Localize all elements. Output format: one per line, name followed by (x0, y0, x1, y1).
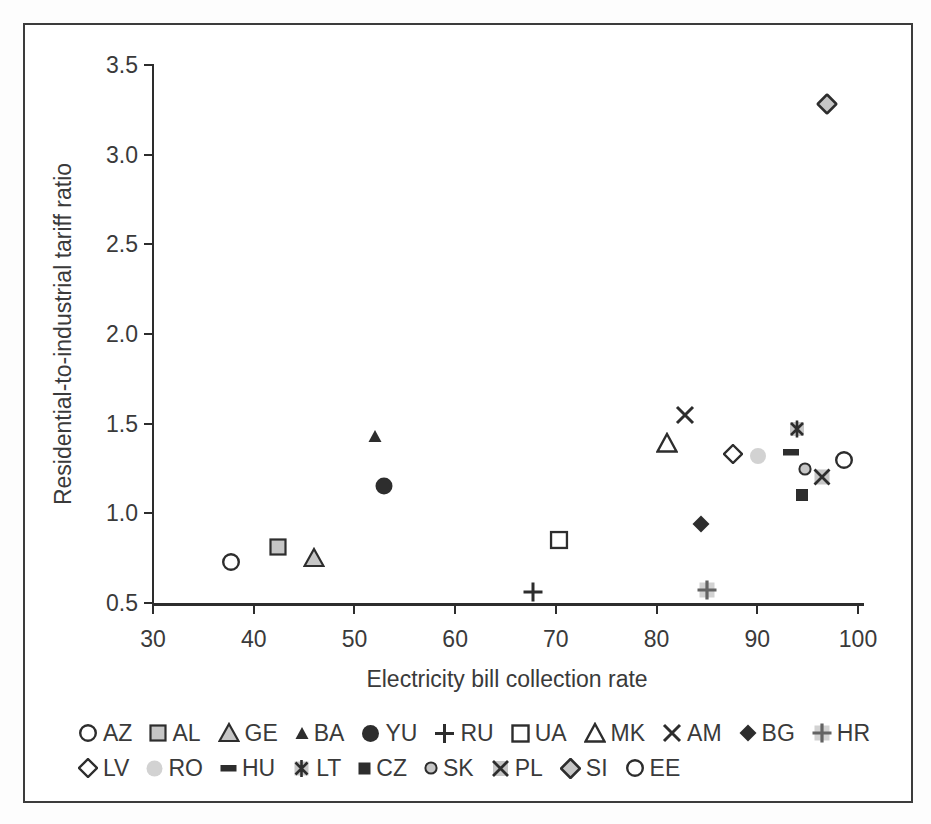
legend-item-CZ: CZ (358, 755, 407, 782)
point-EE (834, 450, 854, 470)
circle-open-icon (625, 758, 645, 778)
legend-label: LT (316, 755, 341, 782)
diamond-dark-icon (739, 724, 757, 742)
legend-row-2: LVROHULTCZSKPLSIEE (78, 753, 680, 783)
x-tick-label: 90 (727, 626, 787, 652)
plus-on-gray-icon (812, 723, 832, 743)
legend-label: BA (314, 720, 345, 747)
point-AZ (221, 552, 241, 572)
legend-item-RO: RO (146, 755, 203, 782)
x-tick-label: 40 (224, 626, 284, 652)
legend-item-AL: AL (149, 720, 200, 747)
point-LV (723, 444, 743, 464)
legend-label: CZ (376, 755, 407, 782)
x-tick-label: 80 (627, 626, 687, 652)
triangle-dark-small-icon (295, 726, 309, 740)
y-tick-mark (144, 512, 152, 514)
triangle-open-icon (584, 722, 606, 744)
x-tick-mark (555, 606, 557, 614)
legend-item-EE: EE (625, 755, 681, 782)
point-UA (549, 531, 568, 550)
legend-label: AZ (103, 720, 132, 747)
y-axis (152, 64, 154, 606)
x-tick-label: 60 (425, 626, 485, 652)
x-tick-mark (857, 606, 859, 614)
legend-label: YU (385, 720, 417, 747)
legend-item-LV: LV (78, 755, 129, 782)
square-dark-small-icon (358, 762, 371, 775)
point-RO (750, 447, 767, 464)
legend-label: GE (245, 720, 278, 747)
legend-item-LT: LT (292, 755, 341, 782)
point-HR (697, 580, 717, 600)
point-RU (522, 582, 543, 603)
diamond-open-icon (78, 758, 98, 778)
figure-canvas: 0.51.01.52.02.53.03.5 30405060708090100 … (0, 0, 931, 824)
x-tick-label: 70 (526, 626, 586, 652)
y-tick-label: 0.5 (68, 590, 138, 616)
x-tick-mark (656, 606, 658, 614)
point-CZ (795, 489, 808, 502)
legend-label: AM (687, 720, 722, 747)
legend-item-SI: SI (560, 755, 608, 782)
circle-open-icon (78, 723, 98, 743)
diamond-gray-icon (560, 758, 581, 779)
x-tick-mark (756, 606, 758, 614)
point-GE (303, 547, 325, 569)
legend-item-RU: RU (434, 720, 493, 747)
legend-label: SI (586, 755, 608, 782)
y-axis-title: Residential-to-industrial tariff ratio (50, 104, 80, 564)
point-AL (269, 538, 287, 556)
y-tick-mark (144, 154, 152, 156)
point-LT (787, 420, 806, 439)
y-tick-label: 3.5 (68, 52, 138, 78)
legend-label: HR (837, 720, 870, 747)
legend-item-PL: PL (491, 755, 543, 782)
legend-item-BG: BG (739, 720, 795, 747)
legend-label: PL (515, 755, 543, 782)
x-tick-label: 50 (324, 626, 384, 652)
legend-item-BA: BA (295, 720, 345, 747)
legend-label: AL (172, 720, 200, 747)
legend-label: SK (443, 755, 474, 782)
legend-label: EE (650, 755, 681, 782)
circle-gray-icon (146, 760, 163, 777)
point-PL (812, 468, 831, 487)
y-tick-mark (144, 64, 152, 66)
point-BG (692, 515, 710, 533)
point-HU (782, 448, 799, 456)
legend-label: RU (460, 720, 493, 747)
point-AM (675, 405, 695, 425)
x-tick-label: 30 (123, 626, 183, 652)
legend-label: MK (611, 720, 646, 747)
x-tick-mark (454, 606, 456, 614)
point-YU (374, 477, 393, 496)
legend-item-AM: AM (662, 720, 722, 747)
x-axis-title: Electricity bill collection rate (307, 666, 707, 693)
point-SK (798, 462, 812, 476)
legend-label: BG (762, 720, 795, 747)
dash-dark-icon (220, 764, 237, 772)
y-tick-mark (144, 333, 152, 335)
point-BA (368, 429, 382, 443)
point-SI (816, 94, 837, 115)
legend-row-1: AZALGEBAYURUUAMKAMBGHR (78, 718, 870, 748)
legend-item-AZ: AZ (78, 720, 132, 747)
legend-label: RO (168, 755, 203, 782)
x-tick-label: 100 (828, 626, 888, 652)
legend-item-YU: YU (361, 720, 417, 747)
legend-item-HU: HU (220, 755, 275, 782)
x-on-gray-icon (491, 759, 510, 778)
legend-item-HR: HR (812, 720, 870, 747)
x-tick-mark (152, 606, 154, 614)
square-gray-icon (149, 724, 167, 742)
legend-item-GE: GE (218, 720, 278, 747)
y-tick-mark (144, 602, 152, 604)
x-tick-mark (353, 606, 355, 614)
legend-item-UA: UA (511, 720, 567, 747)
legend-item-MK: MK (584, 720, 646, 747)
x-tick-mark (253, 606, 255, 614)
star-on-gray-icon (292, 759, 311, 778)
y-tick-mark (144, 243, 152, 245)
legend-label: HU (242, 755, 275, 782)
